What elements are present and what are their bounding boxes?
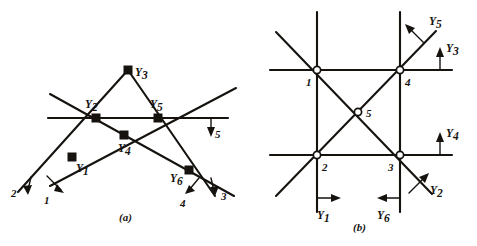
force-arrow-Y5: Y5 <box>405 15 442 43</box>
force-arrow-Y2-label: Y2 <box>430 184 443 199</box>
force-arrow-Y4-label: Y4 <box>446 127 459 142</box>
node-label-Y1: Y1 <box>76 162 89 177</box>
force-arrow-Y6-label: Y6 <box>377 209 390 224</box>
force-arrow-Y6-head <box>377 194 387 202</box>
joint-2 <box>313 151 320 158</box>
panel-b-node-labels: 1 2 3 4 5 <box>306 76 411 173</box>
node-label-Y5: Y5 <box>150 98 163 113</box>
joint-4 <box>396 66 403 73</box>
node-Y4 <box>120 131 128 139</box>
node-Y6 <box>185 166 193 174</box>
force-arrow-Y6: Y6 <box>377 186 400 224</box>
joint-1-label: 1 <box>306 76 312 88</box>
node-Y5 <box>154 114 162 122</box>
force-arrow-5-label: 5 <box>215 128 221 140</box>
node-Y1 <box>68 153 76 161</box>
force-arrow-2-head <box>23 185 32 195</box>
node-Y3 <box>124 66 132 74</box>
joint-1 <box>313 66 320 73</box>
force-arrow-3: 3 <box>210 178 227 202</box>
force-arrow-Y4-head <box>436 132 444 142</box>
force-arrow-Y3-head <box>436 47 444 57</box>
force-arrow-Y1-label: Y1 <box>317 209 330 224</box>
force-arrow-5: 5 <box>207 118 221 140</box>
figure-container: Y1 Y2 Y3 Y4 Y5 Y6 <box>0 0 477 246</box>
node-label-Y3: Y3 <box>135 66 148 81</box>
force-arrow-3-label: 3 <box>220 190 227 202</box>
joint-5-label: 5 <box>366 107 372 119</box>
panel-b-caption: (b) <box>353 221 366 234</box>
force-arrow-Y3-label: Y3 <box>446 42 459 57</box>
node-label-Y6: Y6 <box>170 172 183 187</box>
panel-b: 1 2 3 4 5 Y1 <box>270 12 459 234</box>
node-label-Y4: Y4 <box>118 142 131 157</box>
joint-3-label: 3 <box>387 161 394 173</box>
joint-4-label: 4 <box>404 76 411 88</box>
force-arrow-Y3: Y3 <box>436 42 459 70</box>
force-arrow-4-head <box>185 185 195 194</box>
joint-2-label: 2 <box>321 161 328 173</box>
joint-5 <box>354 108 361 115</box>
force-arrow-2-label: 2 <box>10 187 17 199</box>
force-arrow-Y5-label: Y5 <box>429 15 442 30</box>
member-diagonal-lower-left-chord <box>50 94 234 196</box>
node-Y2 <box>92 114 100 122</box>
force-arrow-5-head <box>207 127 215 137</box>
figure-svg: Y1 Y2 Y3 Y4 Y5 Y6 <box>0 0 477 246</box>
force-arrow-4-label: 4 <box>179 197 186 209</box>
panel-a: Y1 Y2 Y3 Y4 Y5 Y6 <box>10 66 236 224</box>
force-arrow-Y1: Y1 <box>317 186 341 224</box>
node-label-Y2: Y2 <box>85 98 98 113</box>
joint-3 <box>396 151 403 158</box>
panel-b-force-arrows: Y1 Y2 Y3 <box>317 15 459 224</box>
force-arrow-Y4: Y4 <box>436 127 459 155</box>
panel-a-caption: (a) <box>119 211 132 224</box>
force-arrow-Y1-head <box>331 194 341 202</box>
force-arrow-1-label: 1 <box>44 194 50 206</box>
